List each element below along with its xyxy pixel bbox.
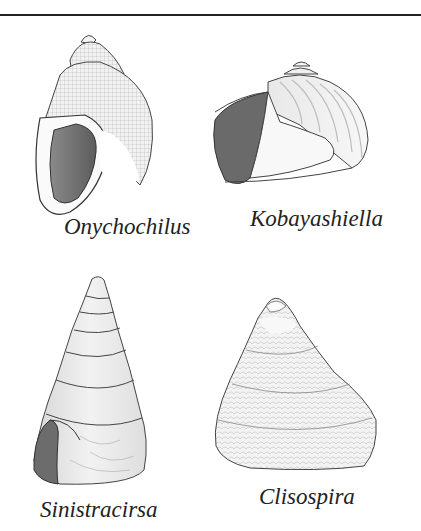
shell-label-clisospira: Clisospira <box>259 484 355 510</box>
clisospira-shell-illustration <box>0 0 421 531</box>
